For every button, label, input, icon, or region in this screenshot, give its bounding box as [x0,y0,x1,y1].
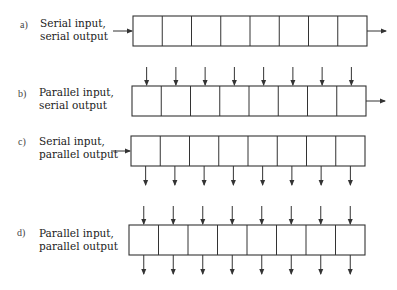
label-tag-d: d) [17,227,25,238]
label-tag-c: c) [18,136,26,147]
caption-a-line1: Serial input, [40,17,108,30]
caption-d-line2: parallel output [39,240,118,253]
caption-b-line1: Parallel input, [39,86,114,99]
label-tag-b: b) [18,88,26,99]
shift-register-diagram: a) Serial input, serial output b) Parall… [0,0,397,290]
register-d [129,206,365,274]
caption-c-line2: parallel output [39,148,118,161]
register-b [132,67,385,116]
caption-a: Serial input, serial output [40,17,108,43]
register-c [111,136,365,185]
caption-a-line2: serial output [40,30,108,43]
caption-c-line1: Serial input, [39,135,118,148]
label-tag-a: a) [20,19,28,30]
register-a [113,16,386,46]
caption-b: Parallel input, serial output [39,86,114,112]
caption-d: Parallel input, parallel output [39,227,118,253]
caption-b-line2: serial output [39,99,114,112]
caption-c: Serial input, parallel output [39,135,118,161]
caption-d-line1: Parallel input, [39,227,118,240]
